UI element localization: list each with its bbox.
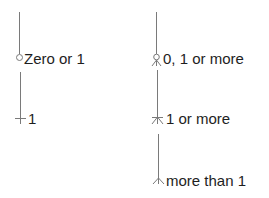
cardinality-label: 0, 1 or more	[163, 51, 244, 66]
cardinality-label: more than 1	[166, 173, 246, 188]
crowsfoot-icon	[0, 0, 170, 198]
cardinality-label: 1 or more	[166, 111, 230, 126]
